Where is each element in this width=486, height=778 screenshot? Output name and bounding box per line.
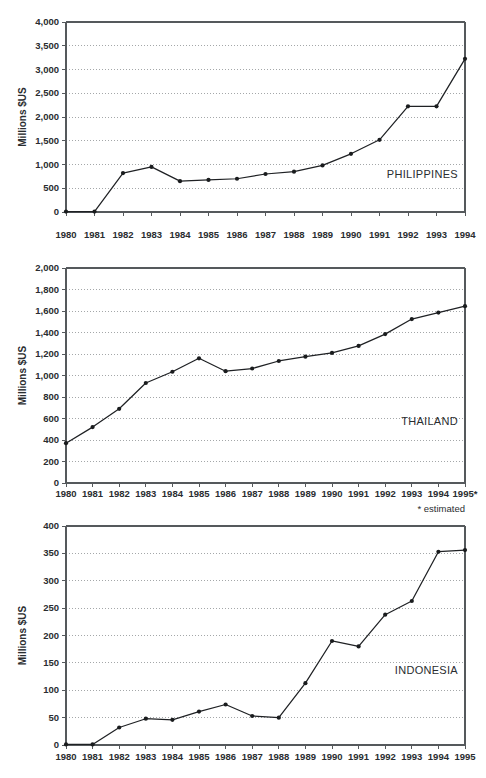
- data-point-1990: [330, 351, 334, 355]
- xtick-label-1993: 1993: [401, 488, 422, 499]
- xtick-label-1990: 1990: [321, 488, 342, 499]
- data-point-1986: [235, 177, 239, 181]
- ytick-label-0: 0: [54, 477, 59, 488]
- plot-philippines: 05001,0001,5002,0002,5003,0003,5004,0001…: [0, 0, 486, 250]
- data-point-1991: [357, 644, 361, 648]
- xtick-label-1981: 1981: [84, 229, 106, 240]
- xtick-label-1985: 1985: [188, 488, 210, 499]
- xtick-label-1995: 1995: [454, 751, 476, 762]
- series-line-indonesia: [66, 550, 465, 744]
- data-point-1992: [383, 613, 387, 617]
- data-point-1981: [91, 742, 95, 746]
- xtick-label-1993: 1993: [401, 751, 422, 762]
- xtick-label-1982: 1982: [109, 751, 130, 762]
- xtick-label-1994: 1994: [428, 488, 450, 499]
- data-point-1980: [64, 209, 68, 213]
- ytick-label-600: 600: [43, 413, 59, 424]
- data-point-1985: [197, 356, 201, 360]
- series-label-philippines: PHILIPPINES: [387, 168, 458, 180]
- ytick-label-2000: 2,000: [35, 262, 59, 273]
- data-point-1992: [383, 332, 387, 336]
- xtick-label-1989: 1989: [312, 229, 333, 240]
- data-point-1988: [292, 170, 296, 174]
- ytick-label-3000: 3,000: [35, 64, 59, 75]
- data-point-1991: [377, 138, 381, 142]
- data-point-1995*: [463, 304, 467, 308]
- data-point-1985: [197, 710, 201, 714]
- data-point-1990: [349, 152, 353, 156]
- xtick-label-1982: 1982: [109, 488, 130, 499]
- xtick-label-1984: 1984: [169, 229, 191, 240]
- xtick-label-1994: 1994: [454, 229, 476, 240]
- data-point-1994: [463, 57, 467, 61]
- xtick-label-1983: 1983: [141, 229, 162, 240]
- ytick-label-0: 0: [54, 739, 59, 750]
- data-point-1983: [144, 717, 148, 721]
- xtick-label-1980: 1980: [55, 229, 76, 240]
- data-point-1980: [64, 742, 68, 746]
- xtick-label-1992: 1992: [375, 488, 396, 499]
- xtick-label-1984: 1984: [162, 488, 184, 499]
- xtick-label-1981: 1981: [82, 488, 104, 499]
- data-point-1988: [277, 716, 281, 720]
- ytick-label-400: 400: [43, 520, 59, 531]
- data-point-1993: [410, 317, 414, 321]
- data-point-1993: [434, 104, 438, 108]
- ytick-label-1400: 1,400: [35, 327, 59, 338]
- xtick-label-1983: 1983: [135, 751, 156, 762]
- footnote-thailand-0: * estimated: [417, 503, 465, 514]
- data-point-1984: [170, 370, 174, 374]
- data-point-1989: [303, 355, 307, 359]
- xtick-label-1986: 1986: [215, 488, 236, 499]
- xtick-label-1991: 1991: [348, 488, 370, 499]
- data-point-1983: [144, 381, 148, 385]
- chart-thailand: 02004006008001,0001,2001,4001,6001,8002,…: [0, 255, 486, 517]
- y-axis-title-indonesia: Millions $US: [17, 605, 28, 665]
- xtick-label-1980: 1980: [55, 488, 76, 499]
- data-point-1994: [436, 550, 440, 554]
- xtick-label-1984: 1984: [162, 751, 184, 762]
- data-point-1982: [117, 407, 121, 411]
- xtick-label-1985: 1985: [198, 229, 220, 240]
- series-label-indonesia: INDONESIA: [395, 664, 459, 676]
- data-point-1992: [406, 104, 410, 108]
- y-axis-title-thailand: Millions $US: [17, 345, 28, 405]
- data-point-1984: [170, 718, 174, 722]
- ytick-label-3500: 3,500: [35, 40, 59, 51]
- ytick-label-2500: 2,500: [35, 87, 59, 98]
- xtick-label-1988: 1988: [283, 229, 304, 240]
- ytick-label-250: 250: [43, 602, 59, 613]
- data-point-1994: [436, 311, 440, 315]
- chart-indonesia: 0501001502002503003504001980198119821983…: [0, 520, 486, 778]
- data-point-1993: [410, 599, 414, 603]
- xtick-label-1995*: 1995*: [453, 488, 478, 499]
- data-point-1985: [206, 178, 210, 182]
- ytick-label-200: 200: [43, 630, 59, 641]
- data-point-1990: [330, 639, 334, 643]
- data-point-1989: [320, 163, 324, 167]
- xtick-label-1980: 1980: [55, 751, 76, 762]
- ytick-label-1200: 1,200: [35, 348, 59, 359]
- series-label-thailand: THAILAND: [401, 415, 458, 427]
- xtick-label-1991: 1991: [369, 229, 391, 240]
- xtick-label-1990: 1990: [340, 229, 361, 240]
- data-point-1986: [224, 702, 228, 706]
- xtick-label-1983: 1983: [135, 488, 156, 499]
- xtick-label-1988: 1988: [268, 751, 289, 762]
- data-point-1986: [224, 369, 228, 373]
- y-axis-title-philippines: Millions $US: [17, 87, 28, 147]
- data-point-1988: [277, 359, 281, 363]
- xtick-label-1986: 1986: [215, 751, 236, 762]
- xtick-label-1993: 1993: [426, 229, 447, 240]
- data-point-1995: [463, 548, 467, 552]
- plot-thailand: 02004006008001,0001,2001,4001,6001,8002,…: [0, 255, 486, 517]
- xtick-label-1987: 1987: [255, 229, 276, 240]
- plot-indonesia: 0501001502002503003504001980198119821983…: [0, 520, 486, 778]
- xtick-label-1992: 1992: [397, 229, 418, 240]
- data-point-1981: [91, 425, 95, 429]
- xtick-label-1985: 1985: [188, 751, 210, 762]
- data-point-1984: [178, 179, 182, 183]
- ytick-label-1000: 1,000: [35, 370, 59, 381]
- ytick-label-1800: 1,800: [35, 284, 59, 295]
- chart-philippines: 05001,0001,5002,0002,5003,0003,5004,0001…: [0, 0, 486, 250]
